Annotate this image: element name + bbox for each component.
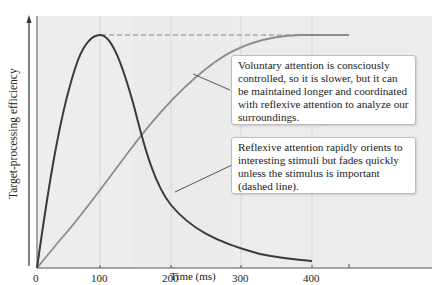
plot-background	[133, 16, 233, 268]
x-axis-label: Time (ms)	[170, 270, 216, 282]
x-tick-label: 0	[33, 272, 39, 284]
voluntary-attention-callout: Voluntary attention is consciously contr…	[231, 55, 416, 125]
x-tick-label: 100	[91, 272, 108, 284]
y-axis-label: Target-processing efficiency	[7, 69, 19, 199]
x-tick-label: 300	[232, 272, 249, 284]
reflexive-attention-callout: Reflexive attention rapidly orients to i…	[231, 137, 416, 194]
y-axis-arrow-icon	[27, 15, 32, 23]
x-tick-label: 400	[303, 272, 320, 284]
plot-background	[37, 16, 133, 268]
